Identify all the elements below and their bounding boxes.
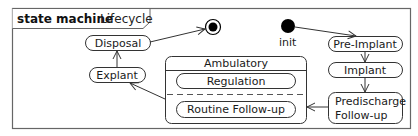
state-predischarge-label-line2: Follow-up (335, 109, 387, 122)
initial-state-icon[interactable] (281, 19, 295, 33)
state-machine-diagram: state machine Lifecycle init Disposal Ex… (0, 0, 418, 136)
state-ambulatory-title: Ambulatory (204, 57, 269, 70)
state-explant-label: Explant (96, 69, 138, 82)
initial-label: init (279, 36, 297, 49)
header-name: Lifecycle (100, 12, 153, 26)
transition-init-to-pre-implant (295, 27, 356, 36)
region-regulation-label: Regulation (207, 75, 266, 88)
state-predischarge-label-line1: Predischarge (335, 95, 406, 108)
state-pre-implant[interactable]: Pre-Implant (329, 37, 403, 52)
state-pre-implant-label: Pre-Implant (333, 38, 397, 51)
transition-ambulatory-to-explant (130, 83, 165, 99)
region-routine-follow-up[interactable]: Routine Follow-up (177, 102, 296, 118)
transition-disposal-to-final (150, 29, 205, 42)
region-regulation[interactable]: Regulation (177, 74, 296, 89)
final-state-icon[interactable] (206, 20, 221, 35)
state-implant[interactable]: Implant (329, 63, 403, 78)
state-ambulatory[interactable]: Ambulatory Regulation Routine Follow-up (166, 57, 307, 124)
state-disposal[interactable]: Disposal (86, 36, 151, 51)
header-keyword: state machine (17, 12, 113, 26)
state-predischarge-follow-up[interactable]: Predischarge Follow-up (329, 93, 407, 124)
state-explant[interactable]: Explant (90, 68, 146, 83)
region-routine-follow-up-label: Routine Follow-up (187, 103, 285, 116)
state-implant-label: Implant (344, 64, 387, 77)
state-disposal-label: Disposal (95, 37, 142, 50)
